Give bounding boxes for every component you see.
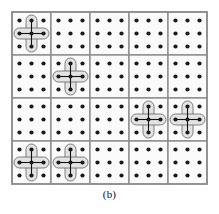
lattice-dot <box>17 61 21 65</box>
lattice-dot <box>146 18 150 22</box>
lattice-dot <box>158 87 162 91</box>
lattice-dot <box>119 31 123 35</box>
lattice-dot <box>29 147 33 151</box>
lattice-dot <box>107 104 111 108</box>
lattice-dot <box>134 160 138 164</box>
lattice-dot <box>41 31 45 35</box>
lattice-dot <box>17 173 21 177</box>
lattice-dot <box>17 74 21 78</box>
lattice-dot <box>146 130 150 134</box>
lattice-dot <box>17 87 21 91</box>
lattice-dot <box>107 18 111 22</box>
lattice-dot <box>185 160 189 164</box>
lattice-dot <box>146 61 150 65</box>
lattice-dot <box>146 160 150 164</box>
lattice-dot <box>119 61 123 65</box>
lattice-dot <box>197 173 201 177</box>
lattice-dot <box>41 74 45 78</box>
lattice-dot <box>134 74 138 78</box>
lattice-dot <box>17 31 21 35</box>
lattice-dot <box>158 117 162 121</box>
lattice-dot <box>158 18 162 22</box>
lattice-dot <box>95 31 99 35</box>
lattice-dot <box>173 44 177 48</box>
lattice-dot <box>68 87 72 91</box>
lattice-dot <box>17 147 21 151</box>
lattice-dot <box>56 117 60 121</box>
lattice-dot <box>107 74 111 78</box>
lattice-dot <box>95 130 99 134</box>
lattice-dot <box>158 44 162 48</box>
lattice-dot <box>17 160 21 164</box>
lattice-dot <box>17 104 21 108</box>
lattice-dot <box>134 18 138 22</box>
lattice-dot <box>68 130 72 134</box>
grid-diagram-canvas <box>0 0 219 214</box>
lattice-dot <box>56 104 60 108</box>
lattice-dot <box>119 117 123 121</box>
lattice-dot <box>158 31 162 35</box>
lattice-dot <box>146 87 150 91</box>
lattice-dot <box>41 147 45 151</box>
lattice-dot <box>29 160 33 164</box>
lattice-dot <box>29 18 33 22</box>
lattice-dot <box>158 104 162 108</box>
lattice-dot <box>185 74 189 78</box>
figure-caption: (b) <box>0 188 219 201</box>
lattice-dot <box>29 130 33 134</box>
lattice-dot <box>185 173 189 177</box>
lattice-dot <box>173 160 177 164</box>
lattice-dot <box>185 61 189 65</box>
lattice-dot <box>185 130 189 134</box>
lattice-dot <box>95 18 99 22</box>
lattice-dot <box>185 117 189 121</box>
lattice-dot <box>134 104 138 108</box>
lattice-dot <box>56 130 60 134</box>
lattice-dot <box>197 44 201 48</box>
lattice-dot <box>146 104 150 108</box>
lattice-dot <box>197 104 201 108</box>
lattice-dot <box>68 74 72 78</box>
lattice-dot <box>197 117 201 121</box>
lattice-dot <box>146 117 150 121</box>
lattice-dot <box>80 130 84 134</box>
lattice-dot <box>134 87 138 91</box>
lattice-dot <box>134 117 138 121</box>
lattice-dot <box>107 31 111 35</box>
lattice-dot <box>197 87 201 91</box>
lattice-dot <box>197 130 201 134</box>
lattice-dot <box>119 130 123 134</box>
lattice-dot <box>185 31 189 35</box>
lattice-dot <box>80 87 84 91</box>
lattice-dot <box>80 31 84 35</box>
lattice-dot <box>41 173 45 177</box>
lattice-dot <box>68 18 72 22</box>
lattice-dot <box>95 44 99 48</box>
lattice-dot <box>95 61 99 65</box>
lattice-dot <box>158 130 162 134</box>
lattice-dot <box>95 117 99 121</box>
lattice-dot <box>80 61 84 65</box>
lattice-dot <box>134 61 138 65</box>
lattice-dot <box>119 160 123 164</box>
lattice-dot <box>80 44 84 48</box>
lattice-dot <box>107 160 111 164</box>
lattice-dot <box>17 130 21 134</box>
lattice-dot <box>107 173 111 177</box>
lattice-dot <box>68 44 72 48</box>
lattice-dot <box>41 130 45 134</box>
lattice-dot <box>68 173 72 177</box>
lattice-dot <box>80 104 84 108</box>
lattice-dot <box>185 147 189 151</box>
lattice-dot <box>29 117 33 121</box>
lattice-dot <box>29 87 33 91</box>
lattice-dot <box>68 160 72 164</box>
lattice-dot <box>56 74 60 78</box>
lattice-dot <box>56 147 60 151</box>
lattice-dot <box>197 18 201 22</box>
lattice-dot <box>134 31 138 35</box>
lattice-dot <box>119 87 123 91</box>
lattice-dot <box>119 147 123 151</box>
lattice-dot <box>107 147 111 151</box>
lattice-dot <box>185 18 189 22</box>
